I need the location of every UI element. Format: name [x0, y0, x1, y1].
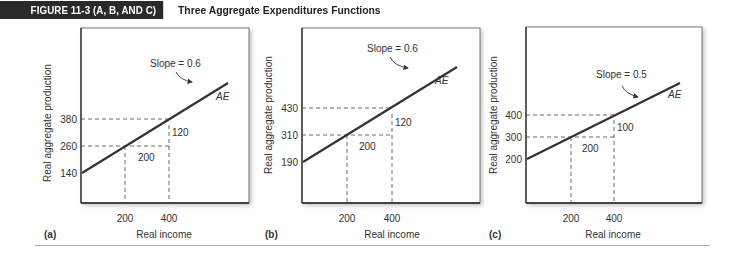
y-axis-label: Real aggregate production: [42, 64, 53, 182]
run-label: 200: [359, 141, 376, 152]
plot-frame: [81, 28, 249, 203]
y-tick-380: 380: [60, 114, 77, 125]
curve-label: AE: [667, 89, 682, 100]
slope-label: Slope = 0.5: [596, 69, 647, 80]
x-tick-200: 200: [117, 213, 134, 224]
curve-label: AE: [215, 91, 230, 102]
plot-frame: [302, 28, 480, 203]
x-axis-label: Real income: [136, 229, 192, 240]
x-axis-label: Real income: [585, 229, 641, 240]
y-axis-label: Real aggregate production: [263, 56, 274, 174]
y-tick-260: 260: [60, 141, 77, 152]
rise-label: 100: [617, 122, 634, 133]
y-tick-400: 400: [505, 110, 522, 121]
panel-label: (b): [265, 229, 278, 240]
y-tick-430: 430: [281, 103, 298, 114]
charts-canvas: Slope = 0.6 AE 380 260 140 200 400 200 1…: [0, 0, 741, 259]
x-tick-400: 400: [384, 213, 401, 224]
y-tick-200: 200: [505, 154, 522, 165]
y-tick-300: 300: [505, 132, 522, 143]
rise-label: 120: [172, 127, 189, 138]
x-tick-200: 200: [563, 213, 580, 224]
x-tick-400: 400: [161, 213, 178, 224]
panel-label: (a): [44, 229, 56, 240]
panel-c: Slope = 0.5 AE 400 300 200 200 400 200 1…: [488, 27, 702, 240]
x-tick-400: 400: [606, 213, 623, 224]
panel-a: Slope = 0.6 AE 380 260 140 200 400 200 1…: [42, 28, 249, 240]
bottom-rule: [35, 245, 710, 246]
y-tick-190: 190: [281, 157, 298, 168]
slope-label: Slope = 0.6: [150, 58, 201, 69]
y-axis-label: Real aggregate production: [488, 56, 499, 174]
x-axis-label: Real income: [364, 229, 420, 240]
y-tick-310: 310: [281, 130, 298, 141]
curve-label: AE: [434, 75, 449, 86]
run-label: 200: [582, 143, 599, 154]
y-tick-140: 140: [60, 168, 77, 179]
panel-b: Slope = 0.6 AE 430 310 190 200 400 200 1…: [263, 28, 480, 240]
panel-label: (c): [489, 229, 501, 240]
slope-label: Slope = 0.6: [367, 43, 418, 54]
rise-label: 120: [395, 117, 412, 128]
x-tick-200: 200: [339, 213, 356, 224]
run-label: 200: [138, 152, 155, 163]
